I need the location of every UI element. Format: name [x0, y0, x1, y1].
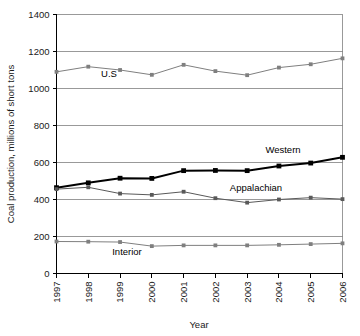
data-point-marker — [86, 65, 90, 69]
x-tick-label: 1998 — [83, 282, 94, 303]
data-point-marker — [118, 192, 122, 196]
x-tick-label: 2000 — [146, 282, 157, 303]
data-point-marker — [213, 168, 218, 173]
data-point-marker — [150, 244, 154, 248]
y-tick-label: 200 — [34, 231, 50, 242]
y-tick-label: 1000 — [28, 83, 49, 94]
data-point-marker — [277, 66, 281, 70]
data-point-marker — [277, 164, 282, 169]
series-line — [57, 157, 343, 187]
y-tick-label: 1400 — [28, 9, 49, 20]
data-point-marker — [86, 240, 90, 244]
data-point-marker — [118, 240, 122, 244]
data-point-marker — [341, 197, 345, 201]
data-point-marker — [309, 62, 313, 66]
y-tick-label: 1200 — [28, 46, 49, 57]
series-interior — [55, 240, 345, 248]
data-point-marker — [213, 196, 217, 200]
data-point-marker — [340, 155, 345, 160]
series-layer — [54, 56, 345, 248]
data-point-marker — [182, 243, 186, 247]
chart-canvas: Coal production, millions of short tons … — [0, 0, 360, 336]
coal-production-line-chart: Coal production, millions of short tons … — [0, 0, 360, 336]
y-axis-ticks: 0200400600800100012001400 — [28, 9, 56, 279]
x-axis-title: Year — [189, 319, 208, 330]
x-tick-label: 1999 — [114, 282, 125, 303]
x-tick-label: 1997 — [51, 282, 62, 303]
data-point-marker — [118, 176, 123, 181]
data-point-marker — [213, 69, 217, 73]
data-point-marker — [245, 73, 249, 77]
data-point-marker — [182, 63, 186, 67]
data-point-marker — [118, 68, 122, 72]
series-label-appalachian: Appalachian — [230, 182, 282, 193]
y-axis-title: Coal production, millions of short tons — [5, 65, 16, 224]
data-point-marker — [86, 180, 91, 185]
data-point-marker — [150, 193, 154, 197]
data-point-marker — [309, 196, 313, 200]
data-point-marker — [213, 243, 217, 247]
data-point-marker — [245, 168, 250, 173]
data-point-marker — [150, 73, 154, 77]
series-label-western: Western — [265, 144, 300, 155]
data-point-marker — [149, 176, 154, 181]
y-tick-label: 800 — [34, 120, 50, 131]
y-tick-label: 600 — [34, 157, 50, 168]
data-point-marker — [86, 185, 90, 189]
data-point-marker — [309, 242, 313, 246]
data-point-marker — [55, 187, 59, 191]
x-tick-label: 2003 — [242, 282, 253, 303]
series-line — [57, 58, 343, 75]
x-tick-label: 2005 — [305, 282, 316, 303]
data-point-marker — [55, 240, 59, 244]
x-axis-ticks: 1997199819992000200120022003200420052006 — [51, 274, 348, 303]
series-line — [57, 187, 343, 202]
data-point-marker — [341, 56, 345, 60]
y-tick-label: 0 — [44, 268, 49, 279]
x-tick-label: 2002 — [210, 282, 221, 303]
series-label-interior: Interior — [112, 246, 142, 257]
series-western — [54, 155, 345, 190]
data-point-marker — [341, 241, 345, 245]
series-appalachian — [55, 185, 345, 204]
data-point-marker — [277, 198, 281, 202]
series-line — [57, 242, 343, 247]
data-point-marker — [55, 70, 59, 74]
data-point-marker — [182, 190, 186, 194]
y-tick-label: 400 — [34, 194, 50, 205]
series-label-u-s: U.S — [101, 68, 117, 79]
data-point-marker — [245, 201, 249, 205]
x-tick-label: 2001 — [178, 282, 189, 303]
x-tick-label: 2004 — [273, 282, 284, 303]
series-u-s — [55, 56, 345, 77]
data-point-marker — [245, 243, 249, 247]
x-tick-label: 2006 — [337, 282, 348, 303]
data-point-marker — [181, 168, 186, 173]
data-point-marker — [308, 161, 313, 166]
data-point-marker — [277, 243, 281, 247]
